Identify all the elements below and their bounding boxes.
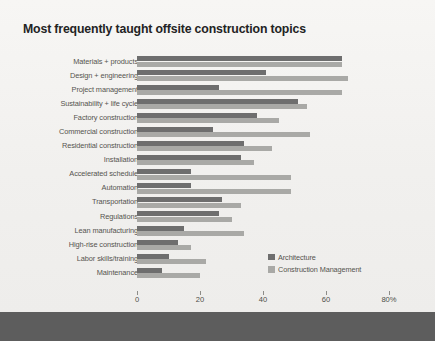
category-label: Residential construction	[62, 139, 138, 153]
bar-architecture	[137, 113, 257, 118]
x-axis-tick-label: 20	[196, 295, 204, 304]
bar-group	[137, 85, 397, 97]
chart-row: Lean manufacturing	[0, 224, 435, 238]
bar-architecture	[137, 85, 219, 90]
bar-construction-management	[137, 217, 232, 222]
chart-row: Factory construction	[0, 111, 435, 125]
chart-row: Automation	[0, 182, 435, 196]
x-axis-tick-mark	[326, 291, 327, 295]
x-axis-tick-label: 80%	[381, 295, 396, 304]
category-label: Factory construction	[73, 111, 138, 125]
bar-group	[137, 127, 397, 139]
category-label: Sustainability + life cycle	[60, 97, 138, 111]
chart-legend: ArchitectureConstruction Management	[268, 252, 408, 277]
x-axis-tick-mark	[137, 291, 138, 295]
legend-swatch-icon	[268, 254, 275, 261]
x-axis-tick-mark	[263, 291, 264, 295]
bar-construction-management	[137, 90, 342, 95]
bar-group	[137, 70, 397, 82]
bar-architecture	[137, 56, 342, 61]
category-label: Project management	[72, 83, 138, 97]
bar-architecture	[137, 127, 213, 132]
bar-construction-management	[137, 231, 244, 236]
chart-row: Project management	[0, 83, 435, 97]
bar-architecture	[137, 183, 191, 188]
legend-swatch-icon	[268, 266, 275, 273]
bar-construction-management	[137, 259, 206, 264]
bar-group	[137, 197, 397, 209]
category-label: Accelerated schedule	[69, 167, 138, 181]
bar-construction-management	[137, 160, 254, 165]
x-axis-tick-label: 60	[322, 295, 330, 304]
bar-group	[137, 99, 397, 111]
bar-construction-management	[137, 118, 279, 123]
bar-architecture	[137, 155, 241, 160]
bar-architecture	[137, 169, 191, 174]
bar-construction-management	[137, 245, 191, 250]
bar-group	[137, 226, 397, 238]
category-label: Regulations	[100, 210, 138, 224]
chart-title: Most frequently taught offsite construct…	[23, 22, 306, 36]
chart-row: Commercial construction	[0, 125, 435, 139]
bar-construction-management	[137, 76, 348, 81]
category-label: Maintenance	[97, 266, 138, 280]
category-label: High-rise construction	[69, 238, 138, 252]
bar-group	[137, 211, 397, 223]
bar-group	[137, 155, 397, 167]
bar-architecture	[137, 226, 184, 231]
bar-group	[137, 169, 397, 181]
category-label: Materials + products	[73, 55, 138, 69]
bar-group	[137, 141, 397, 153]
bar-group	[137, 240, 397, 252]
x-axis: 020406080%	[0, 291, 435, 313]
bar-construction-management	[137, 132, 310, 137]
chart-row: Installation	[0, 154, 435, 168]
legend-item: Architecture	[268, 252, 408, 262]
bar-architecture	[137, 254, 169, 259]
legend-label: Architecture	[278, 253, 316, 262]
bar-group	[137, 56, 397, 68]
chart-row: High-rise construction	[0, 238, 435, 252]
legend-label: Construction Management	[278, 265, 361, 274]
chart-row: Sustainability + life cycle	[0, 97, 435, 111]
category-label: Labor skills/training	[77, 252, 138, 266]
bar-architecture	[137, 70, 266, 75]
bar-construction-management	[137, 175, 291, 180]
chart-row: Residential construction	[0, 140, 435, 154]
bar-construction-management	[137, 203, 241, 208]
category-label: Automation	[102, 181, 138, 195]
bar-architecture	[137, 197, 222, 202]
chart-row: Transportation	[0, 196, 435, 210]
chart-row: Design + engineering	[0, 69, 435, 83]
bar-architecture	[137, 211, 219, 216]
x-axis-tick-label: 40	[259, 295, 267, 304]
footer-band	[0, 312, 435, 341]
category-label: Lean manufacturing	[74, 224, 138, 238]
x-axis-tick-mark	[200, 291, 201, 295]
bar-architecture	[137, 240, 178, 245]
bar-architecture	[137, 268, 162, 273]
bar-construction-management	[137, 189, 291, 194]
x-axis-tick-label: 0	[135, 295, 139, 304]
bar-construction-management	[137, 273, 200, 278]
chart-figure: Most frequently taught offsite construct…	[0, 0, 435, 341]
bar-construction-management	[137, 62, 342, 67]
chart-row: Regulations	[0, 210, 435, 224]
bar-construction-management	[137, 146, 272, 151]
category-label: Installation	[104, 153, 138, 167]
bar-architecture	[137, 141, 244, 146]
category-label: Commercial construction	[59, 125, 138, 139]
category-label: Transportation	[92, 195, 138, 209]
bar-architecture	[137, 99, 298, 104]
x-axis-tick-mark	[389, 291, 390, 295]
bar-construction-management	[137, 104, 307, 109]
bar-group	[137, 183, 397, 195]
category-label: Design + engineering	[70, 69, 138, 83]
legend-item: Construction Management	[268, 265, 408, 275]
chart-row: Accelerated schedule	[0, 168, 435, 182]
bar-group	[137, 113, 397, 125]
chart-row: Materials + products	[0, 55, 435, 69]
